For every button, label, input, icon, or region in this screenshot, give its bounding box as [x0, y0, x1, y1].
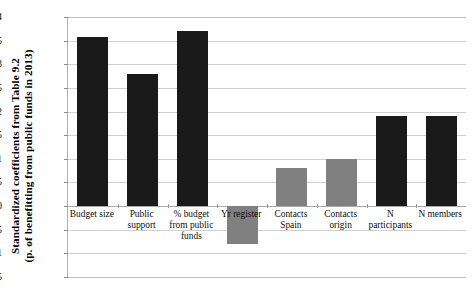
y-axis-title: Standardized coefficients from Table 9.2…	[5, 22, 39, 290]
y-axis-tick	[64, 41, 68, 42]
y-axis-tick	[64, 253, 68, 254]
y-axis-tick-label: 0	[0, 202, 2, 211]
y-axis-tick	[64, 230, 68, 231]
y-axis-tick-label: 0.05	[0, 178, 2, 187]
y-axis-tick	[64, 277, 68, 278]
x-axis-category-label: % budget from public funds	[167, 209, 217, 242]
x-axis-category-label: N participants	[366, 209, 416, 231]
x-axis-category-label: N members	[415, 209, 465, 220]
bar	[376, 116, 407, 206]
x-axis-tick	[118, 204, 119, 208]
y-axis-title-line-2: (p. of benefitting from public funds in …	[22, 49, 35, 262]
bar	[326, 159, 357, 206]
y-axis-tick-label: -0.05	[0, 226, 2, 235]
gridline	[68, 277, 466, 278]
x-axis-tick	[217, 204, 218, 208]
y-axis-tick-label: 0.25	[0, 84, 2, 93]
bar	[177, 31, 208, 206]
x-axis-tick	[267, 204, 268, 208]
y-axis-tick-label: -0.15	[0, 273, 2, 282]
bar	[77, 37, 108, 206]
x-axis-tick	[416, 204, 417, 208]
bar	[127, 74, 158, 206]
y-axis-tick-label: 0.3	[0, 60, 2, 69]
y-axis-tick-label: 0.1	[0, 155, 2, 164]
x-axis-category-label: Yr register	[216, 209, 266, 220]
y-axis-tick-label: -0.1	[0, 249, 2, 258]
bar	[276, 168, 307, 206]
y-axis-tick	[64, 159, 68, 160]
plot-area	[67, 17, 465, 277]
y-axis-tick-label: 0.15	[0, 131, 2, 140]
y-axis-tick-label: 0.35	[0, 37, 2, 46]
y-axis-tick	[64, 17, 68, 18]
x-axis-category-label: Public support	[117, 209, 167, 231]
gridline	[68, 17, 466, 18]
bar-chart: Standardized coefficients from Table 9.2…	[0, 0, 474, 291]
y-axis-tick	[64, 112, 68, 113]
gridline	[68, 64, 466, 65]
x-axis-tick	[317, 204, 318, 208]
gridline	[68, 253, 466, 254]
x-axis-category-label: Contacts origin	[316, 209, 366, 231]
y-axis-tick	[64, 135, 68, 136]
y-axis-tick	[64, 88, 68, 89]
bar	[426, 116, 457, 206]
y-axis-tick-label: 0.2	[0, 108, 2, 117]
x-axis-category-label: Contacts Spain	[266, 209, 316, 231]
y-axis-title-line-1: Standardized coefficients from Table 9.2	[9, 58, 22, 254]
x-axis-category-label: Budget size	[67, 209, 117, 220]
x-axis-tick	[168, 204, 169, 208]
x-axis-tick	[367, 204, 368, 208]
y-axis-tick	[64, 182, 68, 183]
y-axis-tick	[64, 64, 68, 65]
y-axis-tick	[64, 206, 68, 207]
gridline	[68, 41, 466, 42]
y-axis-tick-label: 0.4	[0, 13, 2, 22]
